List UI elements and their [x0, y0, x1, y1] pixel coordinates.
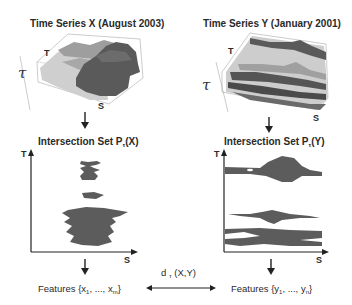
features-y-label: Features {y1, ..., yn}: [231, 283, 312, 295]
plot-y-t-axis-label: T: [214, 149, 220, 159]
plot-y-s-axis-label: S: [316, 255, 322, 265]
distance-label: dτ (X,Y): [161, 267, 196, 279]
intersection-plot-y: [0, 0, 352, 305]
double-arrow-icon: [146, 283, 216, 293]
down-arrow-icon: [266, 259, 276, 277]
